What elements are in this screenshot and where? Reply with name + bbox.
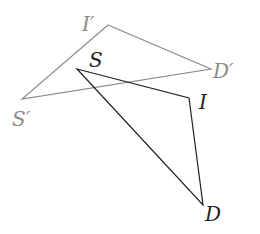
label-D: D <box>204 202 221 226</box>
label-I: I <box>198 90 208 114</box>
label-I-prime: I′ <box>81 12 95 36</box>
label-S: S <box>89 48 103 72</box>
original-triangle <box>77 69 203 205</box>
triangle-diagram: I′ D′ S′ S I D <box>0 0 260 234</box>
label-S-prime: S′ <box>12 107 31 131</box>
label-D-prime: D′ <box>212 59 234 83</box>
image-triangle <box>22 25 211 99</box>
